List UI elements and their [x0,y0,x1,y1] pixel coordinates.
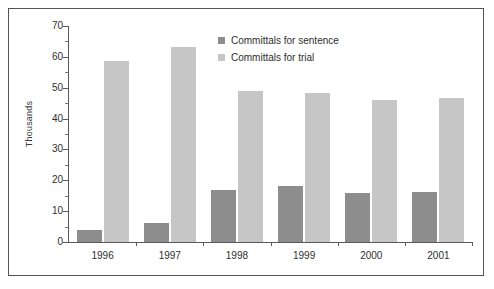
bar-1999-trial [305,93,330,242]
bar-1997-trial [171,47,196,242]
bar-2000-sentence [345,193,370,242]
x-axis-tick-label: 2000 [341,250,401,261]
x-axis-tick-label: 1996 [73,250,133,261]
legend-swatch-icon [218,54,225,61]
chart-legend: Committals for sentenceCommittals for tr… [218,33,339,67]
x-axis-tick-mark [405,242,406,246]
legend-item-label: Committals for trial [231,52,314,63]
x-axis-tick-mark [136,242,137,246]
bar-1996-trial [104,61,129,242]
bar-1999-sentence [278,186,303,242]
bar-2001-trial [439,98,464,242]
legend-item: Committals for trial [218,50,339,64]
bar-2000-trial [372,100,397,242]
bar-1998-sentence [211,190,236,242]
x-axis-tick-mark [338,242,339,246]
legend-item-label: Committals for sentence [231,35,339,46]
legend-item: Committals for sentence [218,33,339,47]
x-axis-tick-mark [271,242,272,246]
chart-frame: Thousands 010203040506070 19961997199819… [8,8,484,276]
bar-1997-sentence [144,223,169,242]
plot-area: Thousands 010203040506070 19961997199819… [9,9,485,277]
x-axis-tick-label: 1997 [140,250,200,261]
legend-swatch-icon [218,37,225,44]
bar-2001-sentence [412,192,437,242]
x-axis-tick-mark [203,242,204,246]
bar-1998-trial [238,91,263,242]
x-axis-tick-label: 2001 [408,250,468,261]
x-axis-tick-label: 1998 [207,250,267,261]
x-axis-tick-label: 1999 [274,250,334,261]
bar-1996-sentence [77,230,102,242]
x-axis-tick-mark [472,242,473,246]
